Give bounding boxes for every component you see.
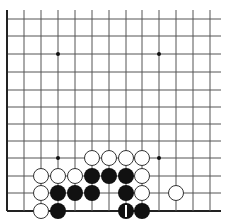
black-stone-disc xyxy=(84,168,100,184)
black-stone-disc xyxy=(67,185,83,201)
white-stone xyxy=(135,186,150,201)
white-stone xyxy=(34,204,49,219)
white-stone-disc xyxy=(135,151,150,166)
white-stone-disc xyxy=(102,151,117,166)
white-stone-disc xyxy=(135,186,150,201)
black-stone xyxy=(134,203,150,219)
white-stone-disc xyxy=(68,169,83,184)
white-stone-disc xyxy=(34,169,49,184)
star-point xyxy=(157,52,161,56)
white-stone-disc xyxy=(169,186,184,201)
star-point xyxy=(157,156,161,160)
white-stone-disc xyxy=(51,169,66,184)
white-stone-disc xyxy=(135,169,150,184)
go-board[interactable] xyxy=(0,0,226,223)
white-stone xyxy=(169,186,184,201)
black-stone-disc xyxy=(118,185,134,201)
black-stone-disc xyxy=(101,168,117,184)
black-stone xyxy=(50,185,66,201)
star-point xyxy=(56,156,60,160)
black-stone-disc xyxy=(118,168,134,184)
black-stone xyxy=(50,203,66,219)
black-stone xyxy=(118,203,134,219)
black-stone xyxy=(84,168,100,184)
black-stone-disc xyxy=(84,185,100,201)
move-number-label xyxy=(125,205,127,217)
white-stone xyxy=(68,169,83,184)
black-stone-disc xyxy=(134,203,150,219)
white-stone-disc xyxy=(85,151,100,166)
white-stone xyxy=(85,151,100,166)
black-stone-disc xyxy=(50,203,66,219)
black-stone xyxy=(84,185,100,201)
white-stone-disc xyxy=(34,186,49,201)
black-stone xyxy=(118,168,134,184)
black-stone-disc xyxy=(50,185,66,201)
white-stone xyxy=(102,151,117,166)
white-stone-disc xyxy=(119,151,134,166)
white-stone xyxy=(34,186,49,201)
black-stone xyxy=(118,185,134,201)
white-stone-disc xyxy=(34,204,49,219)
white-stone xyxy=(135,169,150,184)
white-stone xyxy=(51,169,66,184)
white-stone xyxy=(119,151,134,166)
black-stone xyxy=(101,168,117,184)
white-stone xyxy=(34,169,49,184)
black-stone xyxy=(67,185,83,201)
star-point xyxy=(56,52,60,56)
white-stone xyxy=(135,151,150,166)
